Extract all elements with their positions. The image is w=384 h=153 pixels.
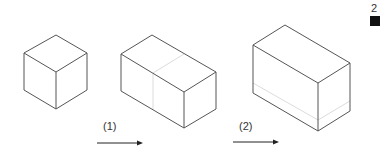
cube-shape bbox=[24, 35, 87, 109]
cuboid-height-shape bbox=[253, 25, 350, 131]
arrow-step-1 bbox=[97, 141, 143, 146]
step-2-label: (2) bbox=[239, 121, 252, 132]
cuboid-length-shape bbox=[121, 35, 216, 128]
diagram-canvas bbox=[0, 0, 384, 153]
page-number: 2 bbox=[371, 3, 377, 14]
step-1-label: (1) bbox=[103, 121, 116, 132]
black-square-marker bbox=[370, 16, 380, 26]
arrow-step-2 bbox=[233, 140, 279, 145]
